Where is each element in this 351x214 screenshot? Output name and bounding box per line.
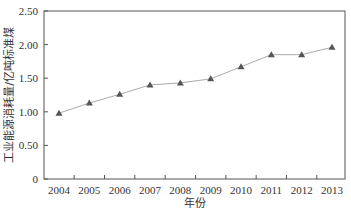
- x-tick-label: 2004: [48, 184, 71, 196]
- y-tick-label: 1.50: [19, 72, 39, 84]
- series-line: [59, 47, 332, 113]
- x-tick-label: 2010: [230, 184, 253, 196]
- plot-frame: [44, 11, 345, 179]
- y-tick-label: 0: [33, 173, 39, 185]
- y-axis-title: 工业能源消耗量/亿吨标准煤: [2, 27, 16, 163]
- x-tick-label: 2006: [109, 184, 132, 196]
- x-tick-label: 2011: [261, 184, 283, 196]
- x-tick-label: 2008: [169, 184, 192, 196]
- x-tick-label: 2012: [291, 184, 313, 196]
- x-tick-label: 2007: [139, 184, 162, 196]
- x-tick-label: 2013: [321, 184, 344, 196]
- triangle-marker-icon: [329, 44, 336, 50]
- x-tick-label: 2005: [78, 184, 101, 196]
- y-tick-label: 0.50: [19, 139, 39, 151]
- y-tick-label: 2.00: [19, 39, 39, 51]
- x-axis-ticks: 2004200520062007200820092010201120122013: [48, 175, 344, 196]
- x-axis-title: 年份: [184, 196, 206, 210]
- y-tick-label: 2.50: [19, 5, 39, 17]
- line-chart: 00.501.001.502.002.50 200420052006200720…: [0, 0, 351, 214]
- x-tick-label: 2009: [200, 184, 223, 196]
- y-tick-label: 1.00: [19, 106, 39, 118]
